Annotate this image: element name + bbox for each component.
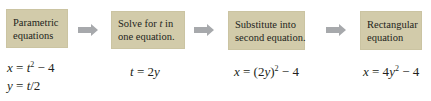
step-1-line-2: equations	[13, 29, 61, 42]
step-2-line-2: one equation.	[118, 30, 178, 43]
right-arrow-icon	[78, 24, 98, 36]
step-1-line-1: Parametric	[13, 16, 61, 29]
step-3-line-2: second equation.	[235, 31, 298, 44]
right-arrow-icon	[326, 24, 346, 36]
equation-substituted: x = (2y)2 − 4	[234, 64, 299, 79]
step-2-line-1: Solve for t in	[118, 17, 178, 30]
equation-x-parametric: x = t2 − 4	[7, 60, 55, 75]
equation-y-parametric: y = t/2	[7, 78, 40, 93]
step-box-substitute: Substitute into second equation.	[229, 12, 304, 49]
equation-solve-t: t = 2y	[130, 64, 160, 79]
step-4-line-1: Rectangular	[367, 18, 415, 31]
step-box-solve-for-t: Solve for t in one equation.	[112, 12, 184, 48]
right-arrow-icon	[194, 24, 214, 36]
step-box-rectangular-equation: Rectangular equation	[361, 12, 421, 49]
equation-rectangular: x = 4y2 − 4	[363, 64, 419, 79]
step-box-parametric-equations: Parametric equations	[7, 10, 67, 47]
step-4-line-2: equation	[367, 31, 415, 44]
step-3-line-1: Substitute into	[235, 18, 298, 31]
